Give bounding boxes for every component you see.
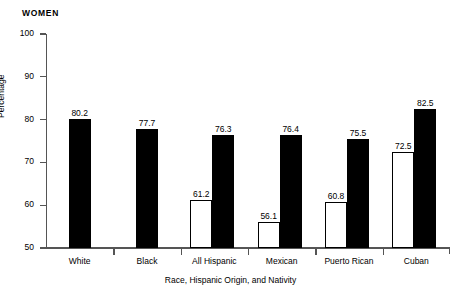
panel-title: WOMEN xyxy=(22,8,59,18)
bar-mexican-filled-bar xyxy=(280,135,302,248)
bar-value-label: 82.5 xyxy=(408,98,442,108)
y-tick-label-70: 70 xyxy=(8,156,34,166)
y-tick-100 xyxy=(40,33,46,34)
x-axis-title: Race, Hispanic Origin, and Nativity xyxy=(0,275,461,285)
y-tick-label-100: 100 xyxy=(8,28,34,38)
x-separator-2 xyxy=(181,249,182,255)
y-tick-label-90: 90 xyxy=(8,71,34,81)
x-axis-end-tick xyxy=(449,248,450,254)
bar-puerto-rican-open-bar xyxy=(325,202,347,248)
bar-mexican-open-bar xyxy=(258,222,280,248)
category-label-cuban: Cuban xyxy=(383,256,450,266)
bar-black-filled-bar xyxy=(136,129,158,248)
x-separator-5 xyxy=(383,249,384,255)
y-tick-60 xyxy=(40,205,46,206)
bar-value-label: 76.4 xyxy=(274,124,308,134)
category-label-white: White xyxy=(46,256,113,266)
category-label-mexican: Mexican xyxy=(248,256,315,266)
category-label-black: Black xyxy=(113,256,180,266)
x-separator-3 xyxy=(248,249,249,255)
category-label-puerto-rican: Puerto Rican xyxy=(315,256,382,266)
bar-value-label: 75.5 xyxy=(341,128,375,138)
chart-figure: WOMEN Percentage 5060708090100 80.277.76… xyxy=(0,0,461,295)
y-tick-50 xyxy=(40,247,46,248)
bar-white-filled-bar xyxy=(69,119,91,248)
bar-value-label: 80.2 xyxy=(63,108,97,118)
bar-all-hispanic-open-bar xyxy=(190,200,212,248)
y-tick-80 xyxy=(40,119,46,120)
bar-all-hispanic-filled-bar xyxy=(212,135,234,248)
x-separator-1 xyxy=(113,249,114,255)
y-axis-title: Percentage xyxy=(0,75,6,118)
y-axis-line xyxy=(46,34,47,248)
category-label-all-hispanic: All Hispanic xyxy=(181,256,248,266)
y-tick-70 xyxy=(40,162,46,163)
y-tick-label-60: 60 xyxy=(8,199,34,209)
bar-puerto-rican-filled-bar xyxy=(347,139,369,248)
bar-value-label: 77.7 xyxy=(130,118,164,128)
x-separator-4 xyxy=(315,249,316,255)
y-tick-90 xyxy=(40,76,46,77)
bar-cuban-open-bar xyxy=(392,152,414,248)
y-tick-label-50: 50 xyxy=(8,242,34,252)
y-tick-label-80: 80 xyxy=(8,114,34,124)
bar-value-label: 76.3 xyxy=(206,124,240,134)
bar-cuban-filled-bar xyxy=(414,109,436,248)
